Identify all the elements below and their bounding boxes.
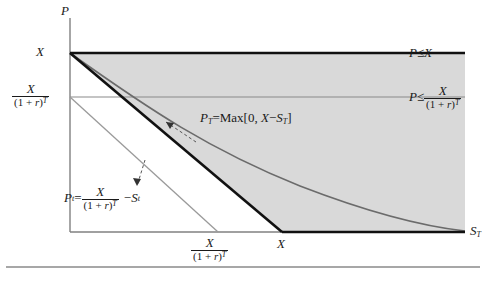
x-tick-denominator: (1 + r)T — [191, 250, 228, 263]
y-tick-discounted-strike: X (1 + r)T — [12, 82, 49, 109]
right-label-upper-bound: P≤X — [409, 45, 432, 61]
right-label-discounted-upper-bound: P≤ X (1 + r)T — [409, 84, 461, 111]
x-tick-strike: X — [277, 236, 285, 252]
annotation-payoff-at-expiration: PT=Max[0, X−ST] — [200, 110, 292, 126]
annotation-lhs: P — [64, 190, 72, 206]
right-label-relation: ≤ — [417, 89, 424, 105]
put-bounds-chart — [0, 0, 486, 284]
annotation-numerator: X — [82, 185, 119, 199]
right-label-numerator: X — [424, 84, 461, 98]
x-tick-numerator: X — [191, 236, 228, 250]
annotation-denominator: (1 + r)T — [82, 199, 119, 212]
y-axis-label: P — [61, 3, 69, 19]
y-tick-denominator: (1 + r)T — [12, 96, 49, 109]
y-tick-numerator: X — [12, 82, 49, 96]
x-tick-discounted-strike: X (1 + r)T — [191, 236, 228, 263]
figure-container: P X X (1 + r)T X (1 + r)T X P≤X P≤ X (1 … — [0, 0, 486, 284]
annotation-lower-bound: Pt= X (1 + r)T −St — [64, 185, 140, 212]
y-tick-strike: X — [36, 44, 44, 60]
x-axis-end-label: ST — [470, 223, 481, 239]
right-label-denominator: (1 + r)T — [424, 98, 461, 111]
right-label-p: P — [409, 89, 417, 105]
